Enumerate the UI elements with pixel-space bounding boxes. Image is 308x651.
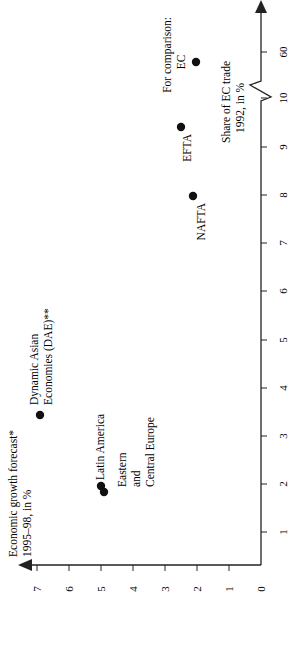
x-tick-60: 60 — [277, 46, 289, 58]
x-tick-3: 3 — [277, 433, 289, 439]
label-ece-line2: and — [130, 470, 142, 487]
point-dae — [36, 411, 44, 419]
scatter-chart-svg: 0 1 2 3 4 5 6 7 1 2 3 4 5 6 7 8 9 10 60 … — [0, 0, 308, 651]
x-axis — [250, 11, 271, 565]
label-nafta: NAFTA — [195, 202, 207, 240]
y-ticks: 0 1 2 3 4 5 6 7 — [31, 565, 267, 592]
x-axis-title-line2: 1992, in % — [234, 82, 247, 133]
y-axis-arrow-icon — [18, 559, 32, 571]
x-tick-10: 10 — [277, 92, 289, 104]
y-tick-1: 1 — [223, 586, 235, 592]
y-axis-title-line1: Economic growth forecast* — [7, 430, 20, 557]
x-tick-4: 4 — [277, 385, 289, 391]
y-tick-7: 7 — [31, 586, 43, 592]
y-axis-title-line2: 1995–98, in % — [21, 489, 34, 557]
y-tick-0: 0 — [255, 586, 267, 592]
y-tick-2: 2 — [191, 586, 203, 592]
label-dae-line2: Economies (DAE)** — [42, 308, 55, 405]
point-eastern-central-europe — [100, 488, 108, 496]
point-ec — [192, 58, 200, 66]
label-ece-line3: Central Europe — [144, 417, 157, 487]
label-ece-line1: Eastern — [116, 452, 128, 487]
label-for-comparison: For comparison: — [161, 17, 174, 93]
label-ec: EC — [175, 54, 187, 69]
point-nafta — [189, 192, 197, 200]
x-tick-6: 6 — [277, 288, 289, 294]
y-tick-6: 6 — [63, 586, 75, 592]
y-tick-5: 5 — [95, 586, 107, 592]
y-tick-4: 4 — [127, 586, 139, 592]
x-tick-2: 2 — [277, 481, 289, 487]
x-axis-title-line1: Share of EC trade — [220, 61, 232, 143]
y-tick-3: 3 — [159, 586, 171, 592]
x-axis-arrow-icon — [255, 0, 267, 13]
x-ticks: 1 2 3 4 5 6 7 8 9 10 60 — [261, 46, 289, 535]
x-tick-7: 7 — [277, 240, 289, 246]
rotated-chart: 0 1 2 3 4 5 6 7 1 2 3 4 5 6 7 8 9 10 60 … — [0, 0, 308, 651]
point-efta — [177, 123, 185, 131]
label-latin-america: Latin America — [94, 414, 106, 480]
x-tick-5: 5 — [277, 337, 289, 343]
x-tick-9: 9 — [277, 144, 289, 150]
x-tick-8: 8 — [277, 192, 289, 198]
x-tick-1: 1 — [277, 529, 289, 535]
label-efta: EFTA — [181, 133, 193, 162]
label-dae-line1: Dynamic Asian — [28, 334, 41, 405]
